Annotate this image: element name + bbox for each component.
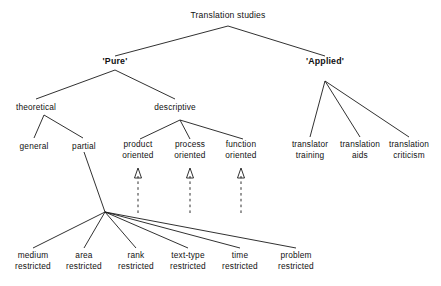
node-process-oriented-line2: oriented (174, 150, 205, 161)
node-translation-criticism-line1: translation (389, 139, 429, 149)
node-area-restricted-line2: restricted (66, 261, 102, 272)
edge-descriptive-product (140, 120, 180, 139)
node-process-oriented: process oriented (174, 139, 205, 161)
edge-theoretical-partial (44, 115, 83, 138)
edge-hub-time (105, 212, 240, 248)
node-function-oriented: function oriented (225, 139, 256, 161)
node-partial: partial (72, 141, 96, 152)
edge-theoretical-general (34, 115, 44, 138)
node-translation-aids-line2: aids (340, 150, 380, 161)
edge-pure-theoretical (36, 70, 115, 99)
edge-partial-hub (84, 152, 105, 212)
node-text-type-restricted-line2: restricted (170, 261, 206, 272)
node-function-oriented-line2: oriented (225, 150, 256, 161)
node-theoretical: theoretical (16, 102, 56, 113)
node-product-oriented-line1: product (124, 139, 153, 149)
translation-studies-diagram: Translation studies 'Pure' 'Applied' the… (0, 0, 441, 286)
node-translator-training-line2: training (292, 150, 328, 161)
node-medium-restricted-line2: restricted (15, 261, 51, 272)
node-translator-training-line1: translator (292, 139, 328, 149)
node-text-type-restricted-line1: text-type (171, 250, 204, 260)
node-product-oriented-line2: oriented (122, 150, 153, 161)
edge-descriptive-function (180, 120, 243, 139)
node-time-restricted: time restricted (222, 250, 258, 272)
node-translator-training: translator training (292, 139, 328, 161)
node-process-oriented-line1: process (175, 139, 205, 149)
edge-root-applied (228, 26, 325, 56)
node-root: Translation studies (190, 10, 265, 21)
node-general: general (20, 141, 49, 152)
node-medium-restricted: medium restricted (15, 250, 51, 272)
node-rank-restricted-line2: restricted (118, 261, 154, 272)
node-product-oriented: product oriented (122, 139, 153, 161)
node-descriptive: descriptive (154, 102, 195, 113)
node-rank-restricted: rank restricted (118, 250, 154, 272)
node-translation-criticism: translation criticism (389, 139, 429, 161)
node-text-type-restricted: text-type restricted (170, 250, 206, 272)
node-translation-aids-line1: translation (340, 139, 380, 149)
edge-applied-translator-training (310, 81, 325, 137)
edge-hub-texttype (105, 212, 188, 248)
node-problem-restricted-line2: restricted (278, 261, 314, 272)
node-area-restricted: area restricted (66, 250, 102, 272)
edge-applied-translation-aids (325, 81, 360, 137)
node-translation-criticism-line2: criticism (389, 150, 429, 161)
node-pure: 'Pure' (103, 56, 128, 67)
node-area-restricted-line1: area (75, 250, 92, 260)
node-medium-restricted-line1: medium (18, 250, 49, 260)
node-translation-aids: translation aids (340, 139, 380, 161)
node-applied: 'Applied' (306, 56, 344, 67)
node-time-restricted-line1: time (232, 250, 248, 260)
edge-pure-descriptive (115, 70, 175, 99)
node-rank-restricted-line1: rank (128, 250, 145, 260)
node-function-oriented-line1: function (226, 139, 256, 149)
edge-hub-problem (105, 212, 296, 248)
node-time-restricted-line2: restricted (222, 261, 258, 272)
edge-applied-translation-criticism (325, 81, 409, 137)
node-problem-restricted-line1: problem (280, 250, 311, 260)
edge-root-pure (115, 26, 228, 56)
node-problem-restricted: problem restricted (278, 250, 314, 272)
